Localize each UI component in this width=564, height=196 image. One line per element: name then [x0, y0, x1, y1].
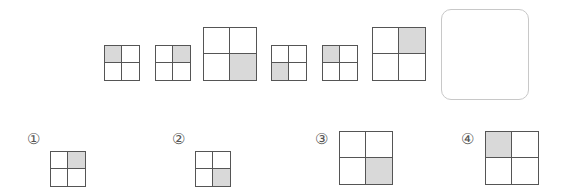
shaded-cell — [323, 46, 340, 63]
shaded-cell — [486, 132, 512, 158]
grid-cell — [105, 63, 122, 80]
shaded-cell — [272, 63, 289, 80]
option-square-3[interactable] — [339, 131, 393, 185]
grid-cell — [373, 28, 399, 54]
grid-cell — [323, 63, 340, 80]
grid-cell — [196, 152, 213, 169]
sequence-square — [271, 45, 307, 81]
shaded-cell — [213, 169, 230, 186]
grid-cell — [486, 158, 512, 184]
answer-placeholder-box — [441, 9, 529, 100]
grid-cell — [156, 46, 173, 63]
grid-cell — [512, 132, 538, 158]
shaded-cell — [68, 152, 85, 169]
grid-cell — [340, 158, 366, 184]
sequence-square — [203, 27, 257, 81]
option-label: ② — [172, 131, 185, 147]
grid-cell — [204, 54, 230, 80]
option-square-1[interactable] — [50, 151, 86, 187]
grid-cell — [373, 54, 399, 80]
grid-cell — [51, 152, 68, 169]
sequence-square — [155, 45, 191, 81]
grid-cell — [366, 132, 392, 158]
grid-cell — [173, 63, 190, 80]
option-label: ④ — [461, 131, 474, 147]
grid-cell — [156, 63, 173, 80]
shaded-cell — [399, 28, 425, 54]
grid-cell — [230, 28, 256, 54]
option-label: ① — [27, 131, 40, 147]
grid-cell — [289, 63, 306, 80]
option-square-4[interactable] — [485, 131, 539, 185]
shaded-cell — [230, 54, 256, 80]
sequence-square — [372, 27, 426, 81]
grid-cell — [196, 169, 213, 186]
grid-cell — [512, 158, 538, 184]
grid-cell — [340, 46, 357, 63]
grid-cell — [213, 152, 230, 169]
option-label: ③ — [315, 131, 328, 147]
grid-cell — [51, 169, 68, 186]
grid-cell — [399, 54, 425, 80]
grid-cell — [122, 46, 139, 63]
grid-cell — [272, 46, 289, 63]
shaded-cell — [105, 46, 122, 63]
shaded-cell — [173, 46, 190, 63]
grid-cell — [289, 46, 306, 63]
grid-cell — [340, 63, 357, 80]
option-square-2[interactable] — [195, 151, 231, 187]
grid-cell — [204, 28, 230, 54]
sequence-square — [104, 45, 140, 81]
shaded-cell — [366, 158, 392, 184]
sequence-square — [322, 45, 358, 81]
grid-cell — [340, 132, 366, 158]
grid-cell — [122, 63, 139, 80]
grid-cell — [68, 169, 85, 186]
